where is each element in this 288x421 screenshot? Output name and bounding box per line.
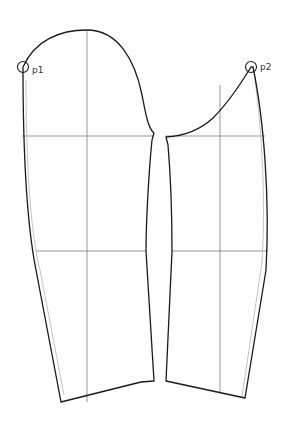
under-sleeve-piece — [166, 67, 268, 398]
p2-label: p2 — [260, 62, 271, 72]
sleeve-pattern-diagram: p1 p2 — [0, 0, 288, 421]
pattern-canvas: p1 p2 — [0, 0, 288, 421]
point-p2[interactable]: p2 — [246, 62, 272, 73]
upper-sleeve-piece — [22, 30, 154, 402]
upper-sleeve-outline — [23, 30, 154, 402]
point-p1[interactable]: p1 — [18, 62, 44, 76]
upper-sleeve-ghost-seam — [26, 80, 64, 395]
p1-label: p1 — [32, 65, 43, 75]
under-sleeve-outline — [166, 67, 267, 398]
